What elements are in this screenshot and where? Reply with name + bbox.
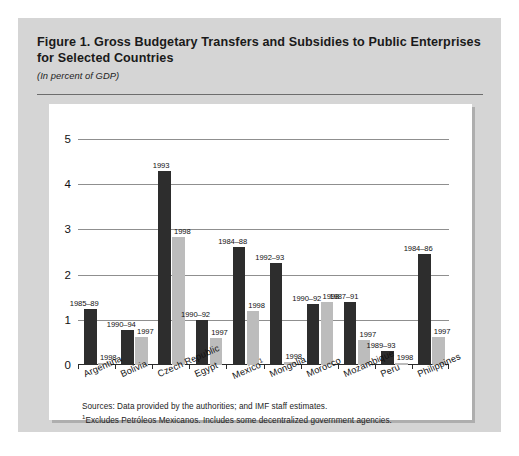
x-axis-tick xyxy=(412,365,413,369)
bar-value-label: 1992–93 xyxy=(255,253,284,262)
bar-early: 1993 xyxy=(158,171,171,365)
bar-early: 1990–92 xyxy=(307,304,320,365)
bar-recent: 1998 xyxy=(321,302,334,365)
figure-title-block: Figure 1. Gross Budgetary Transfers and … xyxy=(37,34,483,81)
bar-value-label: 1997 xyxy=(360,330,377,339)
chart-panel: 0123451985–8919981990–941997199319981990… xyxy=(49,104,472,420)
bar-group: 1984–881998 xyxy=(226,133,263,365)
bar-value-label: 1987–91 xyxy=(329,292,358,301)
bar-value-label: 1990–92 xyxy=(181,310,210,319)
bar-early: 1985–89 xyxy=(84,309,97,366)
title-divider xyxy=(37,94,483,95)
bar-group: 1992–931998 xyxy=(264,133,301,365)
bar-value-label: 1984–88 xyxy=(218,237,247,246)
y-axis-tick-label: 5 xyxy=(65,133,71,145)
x-axis-tick xyxy=(78,365,79,369)
bar-early: 1990–94 xyxy=(121,330,134,365)
bar-value-label: 1984–86 xyxy=(404,244,433,253)
bar-early: 1992–93 xyxy=(270,263,283,365)
x-axis-tick xyxy=(152,365,153,369)
bar-early: 1984–88 xyxy=(233,247,246,365)
bar-value-label: 1985–89 xyxy=(70,299,99,308)
figure-subtitle: (In percent of GDP) xyxy=(37,70,483,81)
figure-title: Figure 1. Gross Budgetary Transfers and … xyxy=(37,34,483,67)
plot-area: 0123451985–8919981990–941997199319981990… xyxy=(78,133,449,365)
bar-group: 19931998 xyxy=(152,133,189,365)
footnote-1-text: Excludes Petróleos Mexicanos. Includes s… xyxy=(85,416,392,425)
bar-value-label: 1997 xyxy=(137,327,154,336)
y-axis-tick-label: 1 xyxy=(65,314,71,326)
bar-value-label: 1990–94 xyxy=(107,320,136,329)
footnote-1: 1Excludes Petróleos Mexicanos. Includes … xyxy=(82,413,472,427)
bar-group: 1987–911997 xyxy=(338,133,375,365)
source-note: Sources: Data provided by the authoritie… xyxy=(82,401,472,413)
figure-box: Figure 1. Gross Budgetary Transfers and … xyxy=(18,18,501,432)
bar-group: 1990–941997 xyxy=(115,133,152,365)
y-axis-tick-label: 0 xyxy=(65,359,71,371)
bar-recent: 1998 xyxy=(172,237,185,365)
bar-value-label: 1998 xyxy=(174,227,191,236)
bar-value-label: 1997 xyxy=(434,327,451,336)
bar-value-label: 1998 xyxy=(397,353,414,362)
bar-early: 1984–86 xyxy=(418,254,431,365)
bar-value-label: 1997 xyxy=(211,328,228,337)
bar-value-label: 1998 xyxy=(248,301,265,310)
bar-group: 1984–861997 xyxy=(412,133,449,365)
figure-notes: Sources: Data provided by the authoritie… xyxy=(82,401,472,427)
y-axis-tick-label: 2 xyxy=(65,269,71,281)
bar-group: 1985–891998 xyxy=(78,133,115,365)
bar-value-label: 1990–92 xyxy=(292,294,321,303)
bar-early: 1987–91 xyxy=(344,302,357,365)
bar-group: 1990–921997 xyxy=(189,133,226,365)
bar-value-label: 1993 xyxy=(153,161,170,170)
bar-group: 1990–921998 xyxy=(301,133,338,365)
y-axis-tick-label: 4 xyxy=(65,178,71,190)
y-axis-tick-label: 3 xyxy=(65,223,71,235)
x-axis-tick xyxy=(226,365,227,369)
